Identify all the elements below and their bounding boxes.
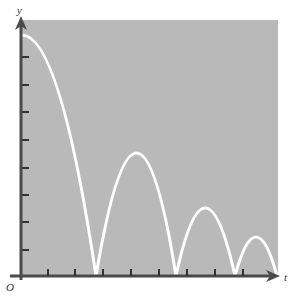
plot-panel — [22, 20, 278, 276]
bouncing-ball-graph: y t O — [0, 0, 294, 303]
x-axis-label: t — [284, 271, 288, 283]
y-axis-label: y — [16, 4, 22, 16]
origin-label: O — [6, 281, 14, 293]
